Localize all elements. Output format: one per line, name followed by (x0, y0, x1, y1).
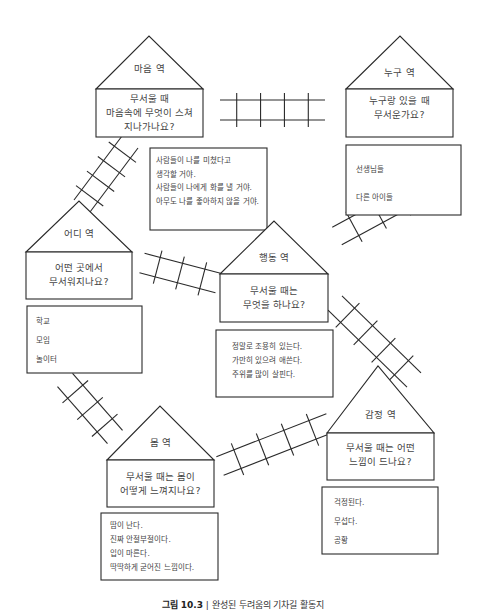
answer-box-behavior: 정말로 조용히 있는다. 가만히 있으려 애쓴다. 주위를 많이 살핀다. (232, 340, 302, 382)
rail (90, 148, 138, 212)
sleeper (98, 157, 125, 177)
station-name-body: 몸 역 (107, 436, 214, 450)
station-question-behavior: 무서울 때는 무엇을 하나요? (220, 284, 328, 312)
answer-box-mind: 사람들이 나를 미쳤다고 생각할 거야. 사람들이 나에게 화를 낼 거야. 아… (156, 154, 259, 208)
answer-box-feeling: 걱정된다. 무섭다. 공황 (334, 493, 364, 550)
station-name-who: 누구 역 (346, 66, 453, 80)
answer-item: 사람들이 나에게 화를 낼 거야. (156, 181, 259, 195)
question-line: 무서워지나요? (26, 275, 132, 289)
question-line: 어떤 곳에서 (26, 261, 132, 275)
station-name-where: 어디 역 (26, 227, 132, 241)
question-line: 무서운가요? (346, 108, 453, 122)
rail (74, 136, 122, 200)
answer-box-body: 땀이 난다. 진짜 안절부절이다. 입이 마른다. 딱딱하게 굳어진 느낌이다. (110, 519, 194, 575)
answer-item: 무섭다. (334, 512, 364, 531)
track-mind-who (220, 93, 325, 127)
question-line: 무서울 때 (96, 92, 203, 106)
question-line: 어떻게 느껴지나요? (107, 484, 214, 498)
station-question-body: 무서울 때는 몸이 어떻게 느껴지나요? (107, 470, 214, 498)
station-name-behavior: 행동 역 (220, 251, 328, 265)
question-line: 무서울 때는 몸이 (107, 470, 214, 484)
rail (328, 310, 407, 387)
caption-label: 그림 10.3 (162, 600, 203, 610)
sleeper (346, 212, 362, 242)
rail (342, 296, 421, 373)
rail (216, 414, 326, 457)
answer-item: 선생님들 (356, 156, 393, 184)
sleeper (372, 338, 396, 362)
station-question-who: 누구랑 있을 때 무서운가요? (346, 94, 453, 122)
station-question-mind: 무서울 때 마음속에 무엇이 스쳐 지나가나요? (96, 92, 203, 134)
track-where-body (57, 373, 122, 443)
roof-feeling (327, 366, 434, 433)
sleeper (336, 303, 360, 327)
figure-caption: 그림 10.3 | 완성된 두려움의 기차길 활동지 (0, 598, 486, 610)
question-line: 마음속에 무엇이 스쳐 (96, 106, 203, 120)
answer-item: 모임 (36, 331, 57, 350)
answer-item: 걱정된다. (334, 493, 364, 512)
question-line: 느낌이 드나요? (327, 455, 434, 469)
answer-item: 주위를 많이 살핀다. (232, 368, 302, 382)
station-name-feeling: 감정 역 (327, 408, 434, 422)
roof-body (107, 406, 214, 460)
answer-item: 놀이터 (36, 350, 57, 369)
sleeper (77, 397, 103, 419)
answer-item: 정말로 조용히 있는다. (232, 340, 302, 354)
rail (224, 432, 334, 475)
station-question-where: 어떤 곳에서 무서워지나요? (26, 261, 132, 289)
answer-item: 사람들이 나를 미쳤다고 (156, 154, 259, 168)
answer-item: 공황 (334, 531, 364, 550)
station-question-feeling: 무서울 때는 어떤 느낌이 드나요? (327, 441, 434, 469)
sleeper (87, 171, 114, 191)
caption-text: 완성된 두려움의 기차길 활동지 (212, 600, 325, 610)
question-line: 무엇을 하나요? (220, 298, 328, 312)
sleeper (92, 414, 118, 436)
question-line: 무서울 때는 어떤 (327, 441, 434, 455)
station-name-mind: 마음 역 (96, 62, 203, 76)
answer-item: 입이 마른다. (110, 547, 194, 561)
answer-item: 다른 아이들 (356, 184, 393, 212)
answer-item: 학교 (36, 312, 57, 331)
answer-box-who: 선생님들 다른 아이들 (356, 156, 393, 212)
track-where-behavior (139, 251, 220, 296)
track-mind-where (74, 136, 138, 212)
question-line: 무서울 때는 (220, 284, 328, 298)
answer-item: 땀이 난다. (110, 519, 194, 533)
sleeper (390, 356, 414, 380)
answer-item: 진짜 안절부절이다. (110, 533, 194, 547)
answer-item: 딱딱하게 굳어진 느낌이다. (110, 561, 194, 575)
answer-item: 아무도 나를 좋아하지 않을 거야. (156, 195, 259, 209)
track-body-feeling (216, 414, 333, 476)
roof-who (346, 36, 453, 89)
sleeper (109, 142, 136, 162)
question-line: 지나가나요? (96, 120, 203, 134)
sleeper (63, 381, 89, 403)
sleeper (354, 321, 378, 345)
caption-separator: | (206, 600, 209, 610)
question-line: 누구랑 있을 때 (346, 94, 453, 108)
answer-item: 가만히 있으려 애쓴다. (232, 354, 302, 368)
answer-box-where: 학교 모임 놀이터 (36, 312, 57, 369)
answer-item: 생각할 거야. (156, 168, 259, 182)
